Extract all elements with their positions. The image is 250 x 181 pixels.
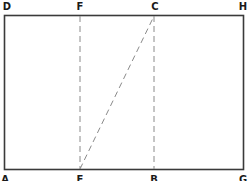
label-b: B xyxy=(150,175,158,181)
label-e: E xyxy=(77,175,84,181)
rectangle-dhga xyxy=(5,16,244,170)
label-d: D xyxy=(3,2,11,12)
label-a: A xyxy=(1,175,9,181)
label-f: F xyxy=(77,2,84,12)
label-h: H xyxy=(239,2,247,12)
label-g: G xyxy=(239,175,247,181)
diagram-canvas: D F C H A E B G xyxy=(0,0,250,181)
dashed-diagonal-ec xyxy=(80,16,154,169)
label-c: C xyxy=(151,2,158,12)
diagram-svg xyxy=(0,0,250,181)
